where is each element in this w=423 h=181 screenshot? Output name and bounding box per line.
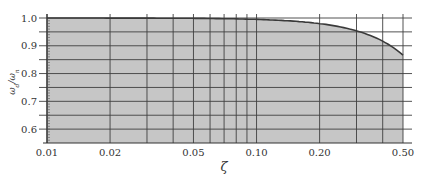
x-tick-label: 0.05	[182, 147, 204, 158]
y-tick-label: 0.8	[21, 68, 37, 79]
y-axis-label: ωd/ωn	[7, 69, 20, 95]
x-tick-label: 0.10	[245, 147, 267, 158]
x-tick-label: 0.01	[36, 147, 58, 158]
shaded-region	[47, 18, 403, 143]
x-tick-label: 0.50	[392, 147, 414, 158]
plot-area	[47, 18, 403, 143]
y-tick-label: 1.0	[21, 13, 37, 24]
x-axis-label: ζ	[220, 159, 228, 174]
y-tick-label: 0.7	[21, 96, 37, 107]
y-axis-ticks: 0.60.70.80.91.0	[21, 13, 37, 135]
damped-frequency-ratio-chart: 0.010.020.050.100.200.50 0.60.70.80.91.0…	[0, 0, 423, 181]
x-tick-label: 0.20	[308, 147, 330, 158]
y-tick-label: 0.6	[21, 124, 37, 135]
x-axis-ticks: 0.010.020.050.100.200.50	[36, 147, 414, 158]
x-tick-label: 0.02	[99, 147, 121, 158]
y-tick-label: 0.9	[21, 40, 37, 51]
